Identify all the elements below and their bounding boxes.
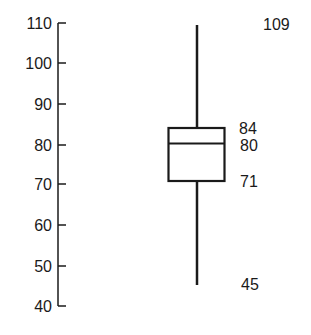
- boxplot-chart: 110 100 90 80 70 60 50 40 109 84 80 71 4…: [0, 0, 311, 335]
- min-label: 45: [241, 276, 259, 293]
- y-tick-label: 90: [34, 96, 52, 113]
- y-tick-label: 50: [34, 258, 52, 275]
- q3-label: 84: [239, 120, 257, 137]
- y-tick-label: 40: [34, 298, 52, 315]
- y-tick-label: 70: [34, 176, 52, 193]
- median-label: 80: [240, 137, 258, 154]
- q1-label: 71: [240, 173, 258, 190]
- value-annotations: 109 84 80 71 45: [239, 16, 290, 293]
- y-axis: 110 100 90 80 70 60 50 40: [25, 15, 66, 315]
- y-tick-label: 100: [25, 55, 52, 72]
- max-label: 109: [263, 16, 290, 33]
- y-tick-label: 60: [34, 217, 52, 234]
- box-plot: [169, 25, 225, 285]
- y-tick-label: 110: [26, 15, 52, 32]
- y-tick-label: 80: [34, 137, 52, 154]
- interquartile-box: [169, 128, 225, 181]
